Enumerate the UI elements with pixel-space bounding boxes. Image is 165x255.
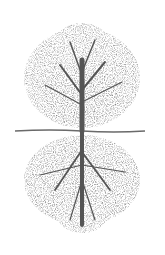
tree-illustration: Grayscale stippled illustration of a tre…	[0, 0, 165, 255]
tree-svg	[0, 0, 165, 255]
